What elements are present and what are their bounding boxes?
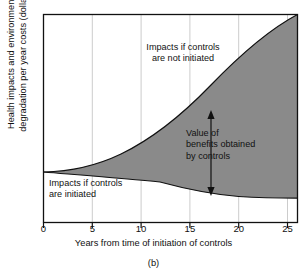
- x-tick-label-20: 20: [227, 223, 251, 234]
- figure-panel-b: Health impacts and environmental degrada…: [0, 0, 307, 278]
- x-tick-label-15: 15: [178, 223, 202, 234]
- x-tick-label-10: 10: [129, 223, 153, 234]
- x-tick-label-0: 0: [32, 223, 56, 234]
- x-tick-label-25: 25: [276, 223, 300, 234]
- panel-caption: (b): [0, 258, 307, 268]
- annotation-impacts-with-controls: Impacts if controls are initiated: [49, 178, 169, 201]
- x-axis-label: Years from time of initiation of control…: [0, 238, 307, 248]
- x-tick-label-5: 5: [80, 223, 104, 234]
- annotation-impacts-no-controls: Impacts if controls are not initiated: [118, 42, 248, 65]
- annotation-value-of-benefits: Value of benefits obtained by controls: [186, 128, 278, 162]
- y-axis-label: Health impacts and environmental degrada…: [6, 0, 29, 165]
